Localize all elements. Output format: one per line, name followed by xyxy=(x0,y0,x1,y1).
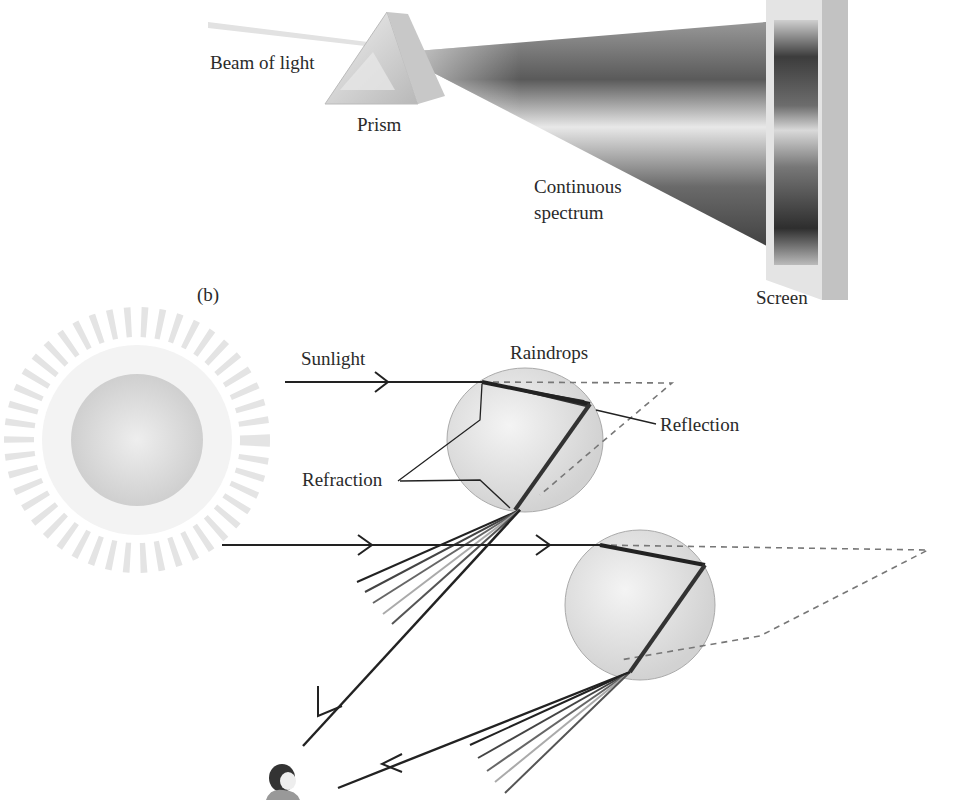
prism-experiment xyxy=(208,0,848,300)
prism-icon xyxy=(325,12,445,104)
observer-person-icon xyxy=(266,764,300,800)
panel-b-tag: (b) xyxy=(197,284,219,306)
prism-label: Prism xyxy=(357,114,401,136)
rainbow-diagram xyxy=(19,322,928,800)
beam-of-light-label: Beam of light xyxy=(210,52,314,74)
sunlight-label: Sunlight xyxy=(301,348,365,370)
diagram-canvas xyxy=(0,0,962,800)
screen-label: Screen xyxy=(756,287,808,309)
raindrops-label: Raindrops xyxy=(510,342,588,364)
refraction-label: Refraction xyxy=(302,469,382,491)
continuous-spectrum-label-line1: Continuous xyxy=(534,176,622,198)
screen-panel xyxy=(766,0,848,300)
continuous-spectrum-label-line2: spectrum xyxy=(534,202,604,224)
reflection-label: Reflection xyxy=(660,414,739,436)
sun-icon xyxy=(19,322,255,558)
